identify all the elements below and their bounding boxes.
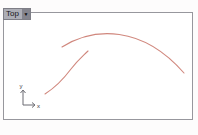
viewport-title-label: Top [4, 9, 22, 19]
axis-gizmo: y x [20, 83, 41, 109]
s-curve[interactable] [45, 51, 88, 94]
drawing-canvas[interactable]: y x [4, 13, 192, 119]
arc-curve[interactable] [62, 34, 184, 73]
cad-viewport[interactable]: Top ▼ y x [3, 12, 193, 120]
viewport-title-tab[interactable]: Top ▼ [3, 8, 31, 20]
y-axis-label: y [20, 83, 23, 89]
x-axis-label: x [37, 103, 40, 109]
chevron-down-icon[interactable]: ▼ [22, 9, 30, 19]
